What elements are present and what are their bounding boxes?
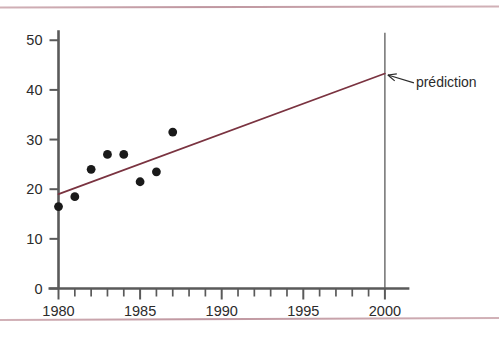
y-axis-tick-labels: 01020304050 bbox=[26, 32, 42, 296]
data-point bbox=[119, 150, 128, 159]
y-tick-label: 50 bbox=[26, 32, 42, 48]
x-axis-ticks bbox=[59, 289, 385, 300]
y-tick-label: 40 bbox=[26, 82, 42, 98]
y-tick-label: 20 bbox=[26, 181, 42, 197]
regression-line bbox=[59, 74, 385, 195]
x-tick-label: 1990 bbox=[206, 303, 238, 319]
data-point bbox=[70, 192, 79, 201]
y-tick-label: 10 bbox=[26, 231, 42, 247]
data-point bbox=[87, 165, 96, 174]
scatter-plot: 01020304050 19801985199019952000 prédict… bbox=[0, 0, 499, 337]
y-axis-ticks bbox=[50, 40, 59, 288]
data-point bbox=[168, 128, 177, 137]
data-points bbox=[54, 128, 177, 211]
x-tick-label: 1985 bbox=[124, 303, 156, 319]
y-tick-label: 30 bbox=[26, 132, 42, 148]
x-tick-label: 2000 bbox=[369, 303, 401, 319]
axes bbox=[49, 30, 410, 288]
annotation-label-prediction: prédiction bbox=[416, 74, 477, 90]
annotation-arrowhead bbox=[388, 74, 397, 75]
data-point bbox=[152, 167, 161, 176]
x-tick-label: 1980 bbox=[42, 303, 74, 319]
y-tick-label: 0 bbox=[34, 281, 42, 297]
data-point bbox=[103, 150, 112, 159]
data-point bbox=[54, 202, 63, 211]
x-axis-tick-labels: 19801985199019952000 bbox=[42, 303, 401, 319]
figure-canvas: 01020304050 19801985199019952000 prédict… bbox=[0, 0, 499, 337]
trend-line bbox=[59, 74, 385, 195]
annotations: prédiction bbox=[388, 74, 477, 90]
data-point bbox=[136, 177, 145, 186]
x-tick-label: 1995 bbox=[287, 303, 319, 319]
